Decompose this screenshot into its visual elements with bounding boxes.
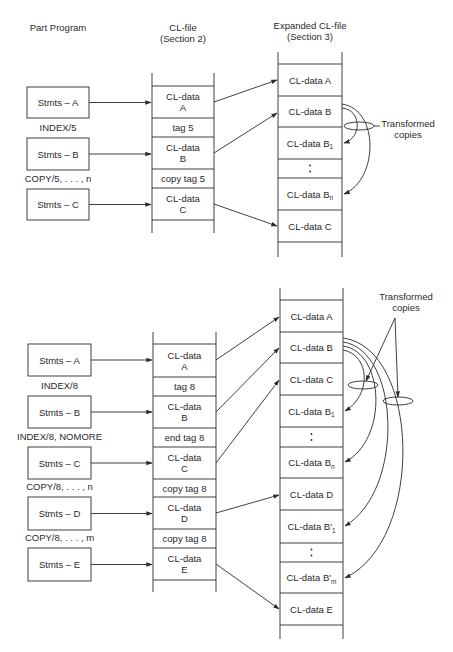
expanded-cell-text: CL-data E [290, 604, 333, 615]
header-expanded-cl-file: Expanded CL-file [274, 20, 347, 31]
expanded-cell-text: CL-data A [290, 311, 333, 322]
arc-b-to-b1-prime [343, 342, 388, 526]
header-cl-file-section: (Section 2) [160, 33, 206, 44]
cell-main-text: CL-data B [290, 342, 333, 353]
diagram-bottom: Stmts – AStmts – BStmts – CStmts – DStmt… [17, 288, 343, 639]
part-program-box-label: Stmts – A [38, 97, 79, 108]
column-headers: Part Program CL-file (Section 2) Expande… [30, 20, 347, 44]
cell-main-text: CL-data A [289, 75, 332, 86]
part-program-box-label: Stmts – A [39, 355, 80, 366]
cell-main-text: CL-data C [288, 221, 331, 232]
cl-file-cell-text: tag 5 [172, 122, 193, 133]
cell-main-text: CL-data C [290, 374, 333, 385]
part-program-box-label: Stmts – C [37, 199, 79, 210]
cell-main-text: CL-data B [288, 406, 331, 417]
label-transformed: Transformed [381, 118, 435, 129]
ellipsis-dot [311, 549, 313, 551]
cl-file-cell-text: CL-data [168, 553, 203, 564]
part-program-box-label: Stmts – E [39, 559, 80, 570]
ellipsis-dot [309, 165, 311, 167]
cl-file-cell-text: A [181, 361, 188, 372]
cell-main-text: CL-data B [287, 138, 330, 149]
directive-label: COPY/5, . . . , n [25, 173, 92, 184]
cl-file-cell-text: A [180, 102, 187, 113]
expanded-cell-text: CL-data Bn [287, 189, 334, 202]
ellipsis-dot [311, 439, 313, 441]
expanded-cell-text: CL-data A [289, 75, 332, 86]
arrow-cl-a-to-expanded-a [216, 317, 279, 360]
part-program-box-label: Stmts – D [39, 508, 81, 519]
directive-label: INDEX/8 [41, 380, 78, 391]
cell-subscript: n [331, 463, 335, 470]
transformed-copies-ellipse [344, 122, 374, 130]
cell-main-text: CL-data B [287, 189, 330, 200]
directive-label: COPY/8, . . . , n [26, 481, 93, 492]
cl-file-cell-text: B [181, 412, 187, 423]
cell-subscript: 1 [332, 527, 336, 534]
header-expanded-cl-file-section: (Section 3) [287, 31, 333, 42]
expanded-cell-text: CL-data B′m [287, 572, 337, 585]
arc-b-to-bn [343, 346, 376, 462]
label-copies: copies [392, 302, 420, 313]
label-pointer-2 [395, 318, 398, 397]
arrow-cl-d-to-expanded-d [216, 495, 279, 513]
label-copies: copies [394, 129, 422, 140]
cell-subscript: n [330, 194, 334, 201]
ellipsis-dot [311, 555, 313, 557]
cl-file-cell-text: end tag 8 [165, 432, 205, 443]
cl-file-cell-text: B [180, 153, 186, 164]
part-program-box-label: Stmts – B [37, 149, 78, 160]
cell-main-text: CL-data B [288, 457, 331, 468]
cl-file-cell-text: copy tag 8 [163, 533, 207, 544]
cl-file-cell-text: CL-data [166, 142, 201, 153]
expanded-cell-text: CL-data D [290, 489, 333, 500]
diagram-canvas: Part Program CL-file (Section 2) Expande… [0, 0, 453, 652]
arrow-cl-c-to-expanded-c [214, 204, 277, 226]
arc-b-to-b1 [343, 350, 364, 411]
cell-subscript: m [331, 578, 336, 585]
cl-file-cell-text: E [181, 564, 187, 575]
expanded-cell-text: CL-data Bn [288, 457, 335, 470]
cell-subscript: 1 [331, 411, 335, 418]
ellipsis-dot [309, 171, 311, 173]
arrow-cl-c-to-expanded-c [216, 380, 279, 463]
bottom-transformed-copies-arcs: Transformed copies [343, 291, 433, 578]
directive-label: INDEX/5 [40, 122, 77, 133]
cl-file-cell-text: copy tag 8 [163, 483, 207, 494]
expanded-cell-text: CL-data B [289, 106, 332, 117]
cl-file-cell-text: D [181, 513, 188, 524]
diagram-top: Stmts – AStmts – BStmts – CINDEX/5COPY/5… [25, 52, 342, 257]
expanded-cell-text: CL-data B1 [288, 406, 335, 419]
cell-main-text: CL-data B′ [287, 572, 332, 583]
arrow-cl-a-to-expanded-a [214, 80, 277, 102]
cl-file-cell-text: CL-data [168, 502, 203, 513]
arrow-cl-e-to-expanded-e [216, 564, 279, 609]
cell-subscript: 1 [330, 143, 334, 150]
cl-file-cell-text: C [181, 463, 188, 474]
top-mapping-arrows [214, 80, 277, 226]
expanded-cell-text: CL-data B′1 [287, 521, 336, 534]
cell-main-text: CL-data B′ [287, 521, 332, 532]
cl-file-cell-text: CL-data [168, 401, 203, 412]
cl-file-cell-text: CL-data [168, 452, 203, 463]
label-pointer-1 [366, 318, 395, 381]
bottom-mapping-arrows [216, 317, 279, 609]
cl-file-cell-text: tag 8 [174, 381, 195, 392]
part-program-box-label: Stmts – B [39, 407, 80, 418]
ellipsis-dot [311, 433, 313, 435]
expanded-cell-text: CL-data B1 [287, 138, 334, 151]
cell-main-text: CL-data E [290, 604, 333, 615]
cell-main-text: CL-data A [290, 311, 333, 322]
cl-file-cell-text: CL-data [166, 193, 201, 204]
cl-file-cell-text: CL-data [166, 91, 201, 102]
cl-file-expansion-diagram: Part Program CL-file (Section 2) Expande… [0, 0, 453, 652]
cell-main-text: CL-data B [289, 106, 332, 117]
header-part-program: Part Program [30, 22, 87, 33]
expanded-cell-text: CL-data C [288, 221, 331, 232]
arrow-cl-b-to-expanded-b [216, 348, 279, 412]
header-cl-file: CL-file [169, 22, 196, 33]
cell-main-text: CL-data D [290, 489, 333, 500]
cl-file-cell-text: CL-data [168, 350, 203, 361]
directive-label: COPY/8, . . . , m [25, 532, 94, 543]
expanded-cell-text: CL-data B [290, 342, 333, 353]
